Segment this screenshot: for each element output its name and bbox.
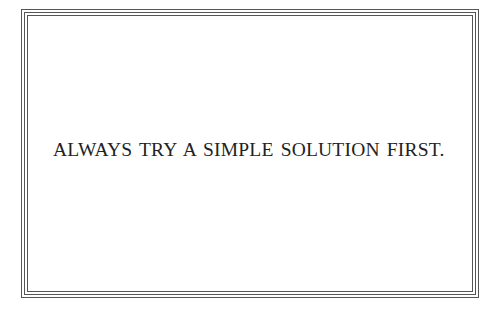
motto-text: ALWAYS TRY A SIMPLE SOLUTION FIRST. bbox=[53, 138, 445, 162]
